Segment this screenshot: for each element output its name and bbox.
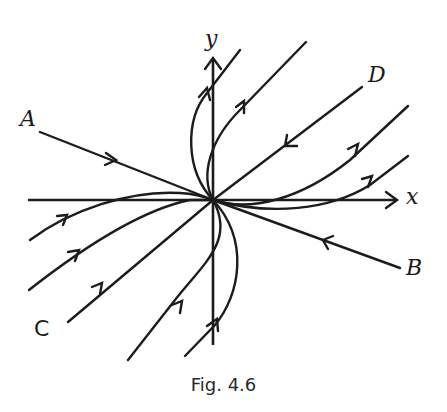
trajectory-B	[213, 200, 400, 268]
label-B: B	[406, 257, 422, 279]
x-axis-label: x	[406, 186, 418, 208]
y-axis-label: y	[205, 28, 217, 50]
trajectory-right-upper-arrow-icon	[348, 144, 358, 156]
trajectory-C-arrow-icon	[92, 283, 102, 294]
figure-4-6: y x A B C D Fig. 4.6	[0, 0, 447, 412]
label-C: C	[34, 318, 49, 340]
trajectory-A	[40, 132, 213, 200]
trajectory-upper-left-curve	[191, 50, 240, 200]
label-A: A	[20, 108, 36, 130]
trajectory-right-upper-curve	[213, 106, 408, 204]
figure-caption: Fig. 4.6	[0, 374, 447, 395]
label-D: D	[368, 64, 386, 86]
trajectory-lower-left-curve	[128, 200, 221, 360]
trajectory-upper-right-curve	[207, 42, 306, 200]
trajectory-D	[213, 87, 362, 200]
